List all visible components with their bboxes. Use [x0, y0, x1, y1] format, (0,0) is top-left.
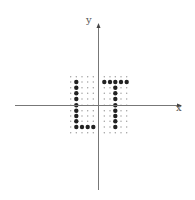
- grid-dot: [109, 115, 110, 116]
- pattern-dot: [113, 86, 117, 90]
- grid-dot: [120, 110, 121, 111]
- grid-dot: [81, 132, 82, 133]
- pattern-dot: [113, 109, 117, 113]
- y-axis-arrow-icon: [97, 23, 101, 28]
- pattern-dot: [113, 114, 117, 118]
- grid-dot: [70, 87, 71, 88]
- pattern-dot: [74, 97, 78, 101]
- grid-dot: [104, 98, 105, 99]
- grid-dot: [81, 98, 82, 99]
- y-axis-label: y: [86, 15, 92, 25]
- grid-dot: [126, 110, 127, 111]
- grid-dot: [93, 110, 94, 111]
- grid-dot: [104, 126, 105, 127]
- grid-dot: [126, 126, 127, 127]
- grid-dot: [87, 98, 88, 99]
- grid-dot: [120, 76, 121, 77]
- grid-dot: [93, 93, 94, 94]
- pattern-dot: [74, 86, 78, 90]
- pattern-dot: [74, 109, 78, 113]
- grid-dot: [93, 76, 94, 77]
- grid-dot: [120, 132, 121, 133]
- grid-dot: [115, 132, 116, 133]
- grid-dot: [126, 115, 127, 116]
- grid-dot: [87, 76, 88, 77]
- pattern-dot: [102, 80, 106, 84]
- pattern-dot: [113, 97, 117, 101]
- grid-dot: [104, 132, 105, 133]
- grid-dot: [81, 93, 82, 94]
- grid-dot: [87, 132, 88, 133]
- grid-dot: [104, 115, 105, 116]
- grid-dot: [120, 115, 121, 116]
- grid-dot: [115, 76, 116, 77]
- grid-dot: [104, 87, 105, 88]
- pattern-dot: [119, 80, 123, 84]
- pattern-dot: [125, 80, 129, 84]
- grid-dot: [81, 110, 82, 111]
- pattern-dot: [113, 119, 117, 123]
- grid-dot: [93, 132, 94, 133]
- grid-dot: [126, 76, 127, 77]
- grid-dot: [81, 87, 82, 88]
- grid-dot: [109, 126, 110, 127]
- grid-dot: [70, 132, 71, 133]
- grid-dot: [76, 132, 77, 133]
- grid-dot: [87, 81, 88, 82]
- pattern-dot: [74, 119, 78, 123]
- grid-dot: [87, 115, 88, 116]
- grid-dot: [87, 110, 88, 111]
- grid-dot: [109, 93, 110, 94]
- pattern-dot: [113, 80, 117, 84]
- grid-dot: [81, 76, 82, 77]
- grid-dot: [120, 87, 121, 88]
- grid-dot: [104, 121, 105, 122]
- grid-dot: [93, 98, 94, 99]
- grid-dot: [93, 115, 94, 116]
- grid-dot: [109, 76, 110, 77]
- pattern-dot: [74, 114, 78, 118]
- pattern-dot: [74, 125, 78, 129]
- grid-dot: [120, 98, 121, 99]
- grid-dot: [93, 81, 94, 82]
- grid-dot: [70, 115, 71, 116]
- grid-dot: [109, 87, 110, 88]
- grid-dot: [104, 110, 105, 111]
- pattern-dot: [113, 91, 117, 95]
- grid-dot: [70, 93, 71, 94]
- pattern-dot: [108, 80, 112, 84]
- pattern-dot: [91, 125, 95, 129]
- grid-dot: [109, 132, 110, 133]
- grid-dot: [126, 87, 127, 88]
- grid-dot: [109, 98, 110, 99]
- grid-dot: [120, 121, 121, 122]
- grid-dot: [120, 93, 121, 94]
- coordinate-plane: [0, 0, 195, 200]
- grid-dot: [70, 121, 71, 122]
- grid-dot: [126, 132, 127, 133]
- grid-dot: [87, 93, 88, 94]
- grid-dot: [70, 126, 71, 127]
- grid-dot: [93, 121, 94, 122]
- grid-dot: [81, 121, 82, 122]
- grid-dot: [76, 76, 77, 77]
- grid-dot: [87, 87, 88, 88]
- pattern-dot: [113, 125, 117, 129]
- pattern-dot: [74, 80, 78, 84]
- grid-dot: [126, 98, 127, 99]
- grid-dot: [81, 115, 82, 116]
- x-axis-label: x: [176, 103, 182, 113]
- grid-dot: [126, 93, 127, 94]
- grid-dot: [126, 121, 127, 122]
- grid-dot: [104, 93, 105, 94]
- grid-dot: [120, 126, 121, 127]
- grid-dot: [109, 121, 110, 122]
- grid-dot: [70, 76, 71, 77]
- grid-dot: [109, 110, 110, 111]
- pattern-dot: [80, 125, 84, 129]
- pattern-dot: [86, 125, 90, 129]
- grid-dot: [70, 81, 71, 82]
- grid-dot: [81, 81, 82, 82]
- grid-dot: [93, 87, 94, 88]
- grid-dot: [70, 110, 71, 111]
